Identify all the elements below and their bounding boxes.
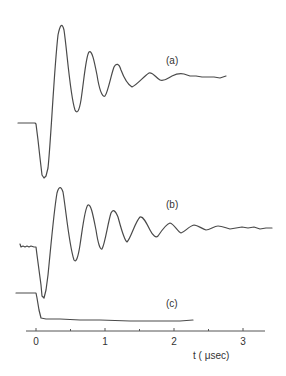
label-c: (c) [166,298,178,309]
trace-a [18,25,226,178]
label-a: (a) [166,55,178,66]
tick-label-1: 1 [102,336,108,347]
label-b: (b) [166,199,178,210]
tick-label-0: 0 [33,336,39,347]
tick-label-3: 3 [240,336,246,347]
x-axis-label: t ( μsec) [193,350,229,361]
oscillation-figure: (a) (b) (c) 0 1 2 3 t ( μsec) [0,0,286,376]
tick-label-2: 2 [171,336,177,347]
trace-b [20,188,272,298]
x-axis: 0 1 2 3 t ( μsec) [26,328,265,361]
